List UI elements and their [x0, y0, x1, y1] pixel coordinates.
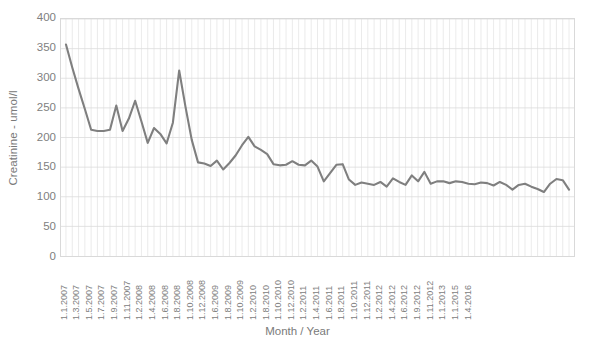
- x-axis-title-text: Month / Year: [265, 325, 330, 337]
- x-axis-tick-label: 1.4.2012: [388, 285, 397, 320]
- y-axis-tick-50: 50: [16, 221, 56, 233]
- x-axis-tick-label: 1.6.2012: [400, 285, 409, 320]
- x-axis-tick-label: 1.6.2009: [211, 285, 220, 320]
- x-axis-tick-label: 1.8.2008: [173, 285, 182, 320]
- x-axis-tick-label: 1.10.2008: [186, 280, 195, 320]
- x-axis-tick-label: 1.8.2010: [262, 285, 271, 320]
- x-axis-tick-label: 1.1.2007: [60, 285, 69, 320]
- x-axis-tick-label: 1.9.2007: [110, 285, 119, 320]
- x-axis-tick-label: 1.4.2008: [148, 285, 157, 320]
- x-axis-tick-label: 1.1.2013: [438, 285, 447, 320]
- x-axis-tick-label: 1.2.2011: [299, 286, 308, 320]
- x-axis-tick-label: 1.2.2008: [135, 285, 144, 320]
- x-axis-tick-label: 1.7.2007: [97, 285, 106, 320]
- creatinine-line-chart: Creatinine - umol/l 40035030025020015010…: [0, 0, 595, 352]
- y-axis-tick-250: 250: [16, 102, 56, 114]
- x-axis-tick-label: 1.4.2011: [312, 286, 321, 320]
- x-axis-tick-label: 1.11.2012: [426, 281, 435, 320]
- x-axis-tick-label: 1.8.2009: [224, 285, 233, 320]
- x-axis-tick-label: 1.6.2008: [161, 285, 170, 320]
- plot-area: [60, 18, 575, 257]
- x-axis-tick-label: 1.12.2008: [198, 280, 207, 320]
- x-axis-tick-labels: 1.1.20071.3.20071.5.20071.7.20071.9.2007…: [60, 258, 575, 320]
- y-axis-tick-150: 150: [16, 162, 56, 174]
- y-axis-tick-400: 400: [16, 12, 56, 24]
- x-axis-tick-label: 1.12.2011: [363, 281, 372, 320]
- x-axis-tick-label: 1.8.2011: [337, 286, 346, 320]
- x-axis-title: Month / Year: [0, 325, 595, 337]
- x-axis-tick-label: 1.5.2007: [85, 285, 94, 320]
- x-axis-tick-label: 1.10.2011: [350, 281, 359, 320]
- x-axis-tick-label: 1.6.2011: [325, 286, 334, 320]
- x-axis-tick-label: 1.11.2007: [123, 281, 132, 320]
- x-axis-tick-label: 1.4.2016: [464, 285, 473, 320]
- y-axis-tick-350: 350: [16, 42, 56, 54]
- x-axis-tick-label: 1.1.2015: [451, 285, 460, 320]
- x-axis-tick-label: 1.12.2010: [287, 280, 296, 320]
- y-axis-tick-0: 0: [16, 251, 56, 263]
- y-axis-tick-labels: 400350300250200150100500: [16, 0, 56, 352]
- x-axis-tick-label: 1.2.2012: [375, 285, 384, 320]
- x-axis-tick-label: 1.9.2012: [413, 285, 422, 320]
- plot-svg: [61, 19, 574, 256]
- x-axis-tick-label: 1.2.2010: [249, 285, 258, 320]
- x-axis-tick-label: 1.3.2007: [72, 285, 81, 320]
- x-axis-tick-label: 1.10.2010: [274, 280, 283, 320]
- y-axis-tick-300: 300: [16, 72, 56, 84]
- x-axis-tick-label: 1.10.2009: [236, 280, 245, 320]
- y-axis-tick-100: 100: [16, 192, 56, 204]
- y-axis-tick-200: 200: [16, 132, 56, 144]
